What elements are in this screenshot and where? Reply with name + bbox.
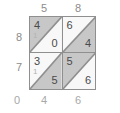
upper-digit-r0c0: 4 [34, 20, 40, 31]
lattice-cell-r0c0: 4 1 0 [30, 17, 63, 53]
carry-digit-r1c0: 1 [33, 68, 37, 76]
top-label-column-1: 8 [71, 3, 85, 14]
lower-digit-r0c0: 0 [51, 38, 57, 49]
lattice-cell-r1c0: 3 1 5 [30, 53, 63, 89]
upper-digit-r1c0: 3 [34, 56, 40, 67]
lattice-cell-r1c1: 5 6 [63, 53, 96, 89]
lower-digit-r1c1: 6 [85, 75, 91, 86]
bottom-label-column-1: 6 [71, 95, 85, 106]
carry-digit-r0c0: 1 [33, 32, 37, 40]
lower-digit-r1c0: 5 [51, 75, 57, 86]
lattice-multiplication-figure: 5 8 8 7 0 4 6 4 1 0 6 4 [0, 0, 120, 113]
left-label-row-1: 7 [12, 62, 26, 73]
upper-digit-r1c1: 5 [67, 56, 73, 67]
bottom-label-column-0: 4 [37, 95, 51, 106]
lower-digit-r0c1: 4 [85, 38, 91, 49]
lattice-grid: 4 1 0 6 4 3 1 5 [29, 16, 96, 90]
top-label-column-0: 5 [37, 3, 51, 14]
lattice-cell-r0c1: 6 4 [63, 17, 96, 53]
left-label-row-0: 8 [12, 32, 26, 43]
bottom-label-origin: 0 [10, 95, 24, 106]
upper-digit-r0c1: 6 [67, 20, 73, 31]
